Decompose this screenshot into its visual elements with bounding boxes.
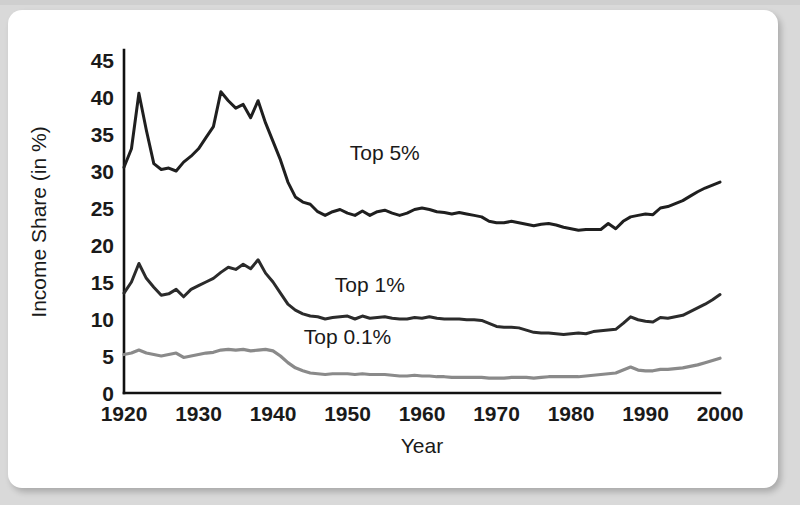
- page-root: 051015202530354045 192019301940195019601…: [0, 0, 800, 505]
- y-tick-labels: 051015202530354045: [91, 49, 115, 405]
- y-tick-label: 5: [102, 345, 114, 368]
- x-tick-label: 1980: [548, 402, 595, 425]
- series-lines-group: [124, 92, 720, 378]
- y-tick-label: 40: [91, 86, 114, 109]
- y-tick-label: 45: [91, 49, 115, 72]
- y-tick-label: 20: [91, 234, 114, 257]
- y-axis-title: Income Share (in %): [27, 126, 50, 317]
- series-line-1: [124, 260, 720, 335]
- x-tick-labels: 192019301940195019601970198019902000: [101, 402, 744, 425]
- x-tick-label: 1970: [473, 402, 520, 425]
- chart-figure: 051015202530354045 192019301940195019601…: [8, 10, 778, 488]
- x-tick-label: 2000: [697, 402, 744, 425]
- y-tick-label: 25: [91, 197, 115, 220]
- top-strip: [0, 0, 800, 5]
- series-label-0: Top 5%: [350, 141, 420, 164]
- x-axis-title: Year: [401, 434, 443, 457]
- x-tick-label: 1930: [175, 402, 222, 425]
- series-label-1: Top 1%: [335, 273, 405, 296]
- x-tick-label: 1990: [622, 402, 669, 425]
- x-tick-label: 1940: [250, 402, 297, 425]
- x-tick-label: 1950: [324, 402, 371, 425]
- y-tick-label: 30: [91, 160, 114, 183]
- series-line-2: [124, 349, 720, 378]
- y-tick-label: 15: [91, 271, 115, 294]
- income-share-line-chart: 051015202530354045 192019301940195019601…: [8, 10, 778, 488]
- x-tick-label: 1920: [101, 402, 148, 425]
- y-tick-label: 35: [91, 123, 115, 146]
- series-label-2: Top 0.1%: [304, 325, 392, 348]
- y-tick-label: 10: [91, 308, 114, 331]
- series-line-0: [124, 92, 720, 230]
- x-tick-label: 1960: [399, 402, 446, 425]
